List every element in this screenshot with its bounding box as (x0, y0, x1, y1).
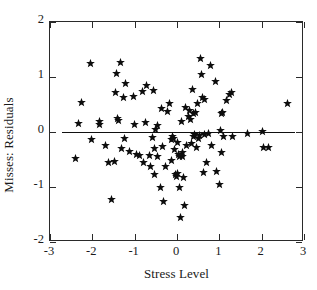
data-point (283, 99, 292, 108)
data-point (222, 96, 231, 105)
data-point (185, 106, 194, 115)
data-point (264, 143, 273, 152)
data-point (204, 129, 213, 138)
y-tick-label-4: 2 (22, 12, 44, 27)
data-point (119, 93, 128, 102)
data-point (112, 69, 121, 78)
data-point (189, 132, 198, 141)
data-point (95, 117, 104, 126)
x-tick-1 (92, 234, 93, 240)
y-tick-label-3: 1 (22, 67, 44, 82)
data-point (187, 139, 196, 148)
x-tick-top-6 (304, 22, 305, 28)
data-point (198, 93, 207, 102)
data-point (218, 108, 227, 117)
data-point (179, 173, 188, 182)
data-point (156, 183, 165, 192)
y-tick-right-1 (296, 187, 302, 188)
data-point (111, 88, 120, 97)
data-point (117, 144, 126, 153)
data-point (158, 142, 167, 151)
data-point (159, 197, 168, 206)
data-point (172, 172, 181, 181)
x-tick-4 (219, 234, 220, 240)
data-point (173, 138, 182, 147)
data-point (101, 141, 110, 150)
data-point (188, 85, 197, 94)
data-point (86, 59, 95, 68)
data-point (206, 61, 215, 70)
data-point (74, 119, 83, 128)
x-tick-top-4 (219, 22, 220, 28)
data-point (145, 151, 154, 160)
data-point (142, 81, 151, 90)
data-point (211, 77, 220, 86)
x-axis-label: Stress Level (49, 266, 304, 282)
data-point (170, 145, 179, 154)
data-point (178, 148, 187, 157)
data-point (139, 158, 148, 167)
data-point (173, 169, 182, 178)
x-tick-6 (304, 234, 305, 240)
y-tick-right-2 (296, 132, 302, 133)
data-point (216, 126, 225, 135)
data-point (71, 154, 80, 163)
data-point (141, 118, 150, 127)
data-point (181, 103, 190, 112)
x-tick-5 (262, 234, 263, 240)
data-point (153, 152, 162, 161)
data-point (182, 141, 191, 150)
data-point (175, 152, 184, 161)
data-point (189, 109, 198, 118)
y-tick-right-0 (296, 242, 302, 243)
data-point (138, 87, 147, 96)
y-tick-label-2: 0 (22, 122, 44, 137)
y-tick-4 (50, 22, 56, 23)
y-tick-right-4 (296, 22, 302, 23)
x-tick-label-6: 3 (290, 244, 316, 259)
x-tick-top-3 (177, 22, 178, 28)
data-point (167, 156, 176, 165)
data-point (184, 112, 193, 121)
data-point (77, 98, 86, 107)
data-point (177, 117, 186, 126)
data-point (228, 132, 237, 141)
data-point (186, 115, 195, 124)
data-point (157, 104, 166, 113)
data-point (176, 213, 185, 222)
data-point (116, 58, 125, 67)
data-point (107, 195, 116, 204)
x-tick-label-2: -1 (121, 244, 147, 259)
data-point (150, 144, 159, 153)
data-point (168, 132, 177, 141)
data-point (87, 135, 96, 144)
data-point (104, 158, 113, 167)
data-point (167, 135, 176, 144)
data-point (215, 180, 224, 189)
data-point (153, 121, 162, 130)
data-point (121, 79, 130, 88)
x-tick-top-1 (92, 22, 93, 28)
data-point (197, 70, 206, 79)
data-point (243, 129, 252, 138)
x-tick-top-5 (262, 22, 263, 28)
data-point (174, 150, 183, 159)
data-point (169, 134, 178, 143)
data-point (114, 116, 123, 125)
data-point (125, 147, 134, 156)
data-point (202, 158, 211, 167)
data-point (199, 168, 208, 177)
data-point (161, 162, 170, 171)
data-point (196, 54, 205, 63)
data-point (217, 109, 226, 118)
data-point (227, 88, 236, 97)
y-tick-3 (50, 77, 56, 78)
data-point (212, 167, 221, 176)
x-tick-3 (177, 234, 178, 240)
data-point (219, 132, 228, 141)
data-point (150, 170, 159, 179)
y-tick-0 (50, 242, 56, 243)
data-point (192, 143, 201, 152)
x-tick-label-4: 1 (205, 244, 231, 259)
data-point (178, 152, 187, 161)
